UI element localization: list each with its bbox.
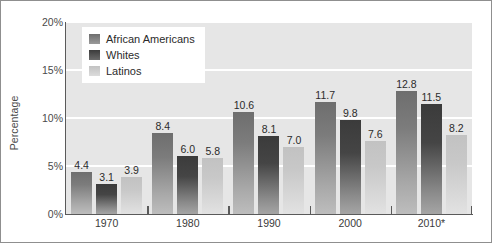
legend-label-african-americans: African Americans <box>106 33 195 45</box>
bar[interactable]: 11.7 <box>315 102 336 214</box>
legend-swatch-whites <box>89 50 100 60</box>
bar-value-label: 3.1 <box>99 171 114 183</box>
legend-item-african-americans: African Americans <box>89 32 195 46</box>
bar-value-label: 11.5 <box>422 91 442 103</box>
bar-group-2010star: 12.811.58.2 <box>391 22 472 214</box>
y-tick-label-0: 0% <box>27 208 63 220</box>
bar-value-label: 10.6 <box>234 99 254 111</box>
bar[interactable]: 8.1 <box>258 136 279 214</box>
bar-value-label: 12.8 <box>396 78 416 90</box>
x-axis-separator-tick <box>228 206 229 214</box>
bar-value-label: 5.8 <box>205 145 220 157</box>
bar-value-label: 8.4 <box>155 120 170 132</box>
bar[interactable]: 4.4 <box>71 172 92 214</box>
legend-label-whites: Whites <box>106 49 140 61</box>
bar[interactable]: 12.8 <box>396 91 417 214</box>
bar-value-label: 6.0 <box>180 143 195 155</box>
legend-swatch-latinos <box>89 66 100 76</box>
x-tick-label-2010star: 2010* <box>418 217 445 229</box>
bar[interactable]: 8.4 <box>152 133 173 214</box>
bar[interactable]: 7.6 <box>365 141 386 214</box>
x-tick-label-1970: 1970 <box>95 217 118 229</box>
bar-group-1990: 10.68.17.0 <box>228 22 309 214</box>
x-axis-separator-tick <box>147 206 148 214</box>
bar-value-label: 3.9 <box>124 164 139 176</box>
legend-item-latinos: Latinos <box>89 64 195 78</box>
y-tick-label-10: 10% <box>27 112 63 124</box>
y-axis-title-text: Percentage <box>8 95 20 150</box>
bar[interactable]: 5.8 <box>202 158 223 214</box>
bar[interactable]: 9.8 <box>340 120 361 214</box>
x-tick-label-1980: 1980 <box>176 217 199 229</box>
bar-value-label: 7.6 <box>368 128 383 140</box>
bar[interactable]: 3.9 <box>121 177 142 214</box>
bar-value-label: 7.0 <box>287 134 302 146</box>
x-axis-separator-tick <box>391 206 392 214</box>
y-axis-line <box>65 22 66 215</box>
x-axis-separator-tick <box>310 206 311 214</box>
x-tick-label-1990: 1990 <box>257 217 280 229</box>
y-axis-tick-labels: 0%5%10%15%20% <box>23 1 63 243</box>
bar[interactable]: 6.0 <box>177 156 198 214</box>
bar[interactable]: 7.0 <box>283 147 304 214</box>
bar[interactable]: 8.2 <box>446 135 467 214</box>
x-tick-label-2000: 2000 <box>339 217 362 229</box>
bar[interactable]: 3.1 <box>96 184 117 214</box>
bar-chart-figure: Percentage 0%5%10%15%20% 4.43.13.98.46.0… <box>0 0 492 243</box>
bar[interactable]: 10.6 <box>233 112 254 214</box>
bar-value-label: 8.1 <box>262 123 277 135</box>
x-axis-end-tick <box>471 206 472 214</box>
bar-value-label: 4.4 <box>74 159 89 171</box>
legend-label-latinos: Latinos <box>106 65 141 77</box>
y-tick-label-20: 20% <box>27 16 63 28</box>
bar-value-label: 8.2 <box>449 122 464 134</box>
chart-legend: African Americans Whites Latinos <box>82 27 205 83</box>
y-axis-title: Percentage <box>3 1 25 243</box>
y-tick-label-15: 15% <box>27 64 63 76</box>
bar-value-label: 9.8 <box>343 107 358 119</box>
x-axis-line <box>65 214 473 215</box>
y-tick-label-5: 5% <box>27 160 63 172</box>
legend-item-whites: Whites <box>89 48 195 62</box>
legend-swatch-african-americans <box>89 34 100 44</box>
bar-value-label: 11.7 <box>315 89 335 101</box>
bar[interactable]: 11.5 <box>421 104 442 214</box>
bar-group-2000: 11.79.87.6 <box>310 22 391 214</box>
